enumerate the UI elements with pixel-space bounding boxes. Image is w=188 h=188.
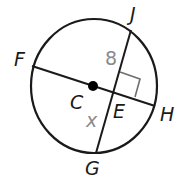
label-e: E bbox=[113, 100, 125, 122]
measure-eg: x bbox=[85, 109, 98, 131]
right-angle-marker bbox=[120, 72, 140, 97]
label-h: H bbox=[160, 103, 174, 125]
label-f: F bbox=[14, 48, 26, 70]
label-j: J bbox=[126, 3, 136, 25]
center-point bbox=[88, 81, 98, 91]
circle-diagram: F J H G C E 8 x bbox=[0, 0, 188, 188]
label-c: C bbox=[70, 91, 84, 113]
label-g: G bbox=[85, 157, 100, 179]
measure-je: 8 bbox=[105, 47, 117, 69]
